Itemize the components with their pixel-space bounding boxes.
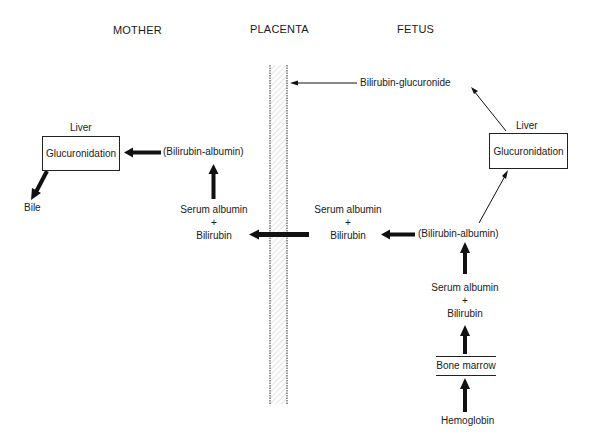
- maternal-serum-albumin-label: Serum albumin: [180, 203, 247, 216]
- arrow-liver-to-bile: [31, 171, 47, 200]
- bile-label: Bile: [24, 202, 41, 214]
- bilirubin-transfer-diagram: MOTHER PLACENTA FETUS: [0, 0, 590, 441]
- fetal-serum-albumin-lower-label: Serum albumin: [431, 281, 498, 294]
- arrow-maternal-bilirubin-up: [209, 164, 219, 199]
- maternal-plus-sign: +: [180, 216, 247, 229]
- fetal-serum-albumin-near-label: Serum albumin: [314, 203, 381, 216]
- maternal-bilirubin-label: Bilirubin: [180, 229, 247, 242]
- arrow-fetal-complex-to-bilirubin: [381, 230, 415, 240]
- bone-marrow-label: Bone marrow: [436, 356, 496, 376]
- maternal-glucuronidation-label: Glucuronidation: [46, 148, 116, 159]
- arrow-fetal-complex-to-liver: [479, 170, 508, 223]
- fetal-liver-box: Glucuronidation: [489, 133, 568, 169]
- fetal-bilirubin-albumin-complex: (Bilirubin-albumin): [418, 228, 499, 240]
- arrow-maternal-complex-to-liver: [124, 148, 161, 158]
- fetal-glucuronidation-label: Glucuronidation: [493, 146, 563, 157]
- fetal-bilirubin-near-label: Bilirubin: [314, 229, 381, 242]
- maternal-liver-label: Liver: [70, 122, 92, 134]
- arrow-glucuronide-to-placenta: [290, 81, 357, 86]
- bilirubin-glucuronide-label: Bilirubin-glucuronide: [360, 77, 451, 89]
- diagram-arrows: [0, 0, 590, 441]
- fetal-liver-label: Liver: [516, 120, 538, 132]
- fetal-plus-near: +: [314, 216, 381, 229]
- maternal-bilirubin-albumin-complex: (Bilirubin-albumin): [163, 146, 244, 158]
- arrow-bone-marrow-up: [460, 325, 470, 354]
- arrow-hemoglobin-up: [460, 378, 470, 412]
- maternal-serum-albumin-bilirubin: Serum albumin + Bilirubin: [180, 203, 247, 242]
- fetal-bilirubin-lower-label: Bilirubin: [431, 307, 498, 320]
- arrow-fetal-lower-to-complex: [460, 242, 470, 274]
- arrow-fetal-liver-to-glucuronide: [471, 87, 506, 131]
- fetal-plus-lower: +: [431, 294, 498, 307]
- maternal-liver-box: Glucuronidation: [42, 136, 120, 171]
- hemoglobin-label: Hemoglobin: [441, 415, 494, 427]
- fetal-serum-albumin-bilirubin-lower: Serum albumin + Bilirubin: [431, 281, 498, 320]
- fetal-serum-albumin-bilirubin-near: Serum albumin + Bilirubin: [314, 203, 381, 242]
